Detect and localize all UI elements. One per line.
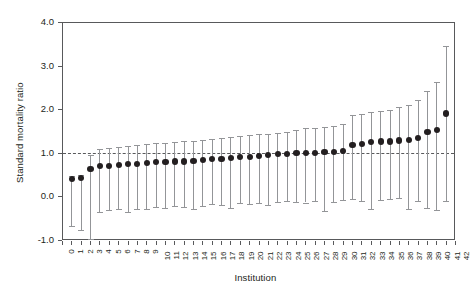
- x-tick-mark: [259, 241, 260, 245]
- error-cap-upper: [350, 115, 356, 116]
- x-tick-mark: [212, 241, 213, 245]
- data-point: [312, 150, 318, 156]
- error-bar: [352, 115, 353, 199]
- x-tick-mark: [427, 241, 428, 245]
- error-cap-lower: [322, 211, 328, 212]
- error-cap-lower: [368, 209, 374, 210]
- error-cap-upper: [200, 140, 206, 141]
- error-cap-lower: [69, 226, 75, 227]
- x-tick-label: 14: [200, 251, 209, 260]
- error-cap-lower: [228, 208, 234, 209]
- error-cap-upper: [219, 138, 225, 139]
- x-tick-mark: [165, 241, 166, 245]
- x-tick-mark: [446, 241, 447, 245]
- error-bar: [390, 110, 391, 199]
- data-point: [162, 159, 168, 165]
- error-cap-lower: [434, 210, 440, 211]
- x-tick-mark: [146, 241, 147, 245]
- error-bar: [193, 141, 194, 209]
- y-tick-label: 2.0: [26, 103, 54, 114]
- error-cap-upper: [275, 133, 281, 134]
- error-bar: [399, 107, 400, 198]
- data-point: [349, 142, 355, 148]
- error-bar: [230, 137, 231, 208]
- y-tick-label: -1.0: [26, 234, 54, 245]
- error-cap-upper: [443, 46, 449, 47]
- error-cap-lower: [191, 209, 197, 210]
- error-cap-upper: [247, 135, 253, 136]
- error-cap-lower: [172, 206, 178, 207]
- x-tick-label: 31: [360, 251, 369, 260]
- x-tick-mark: [305, 241, 306, 245]
- error-bar: [128, 146, 129, 212]
- error-bar: [99, 149, 100, 212]
- x-tick-mark: [99, 241, 100, 245]
- error-cap-upper: [265, 134, 271, 135]
- error-cap-upper: [256, 134, 262, 135]
- x-tick-label: 19: [247, 251, 256, 260]
- error-cap-lower: [415, 201, 421, 202]
- data-point: [97, 163, 103, 169]
- y-tick-label: 0.0: [26, 190, 54, 201]
- x-tick-mark: [399, 241, 400, 245]
- x-tick-mark: [221, 241, 222, 245]
- x-tick-mark: [90, 241, 91, 245]
- error-cap-upper: [331, 126, 337, 127]
- x-tick-label: 0: [67, 249, 76, 253]
- x-tick-mark: [62, 241, 63, 245]
- x-tick-mark: [418, 241, 419, 245]
- error-bar: [240, 136, 241, 203]
- x-tick-mark: [81, 241, 82, 245]
- error-bar: [259, 134, 260, 202]
- error-cap-lower: [350, 199, 356, 200]
- error-cap-lower: [116, 209, 122, 210]
- error-bar: [408, 105, 409, 210]
- error-cap-upper: [387, 110, 393, 111]
- error-bar: [315, 128, 316, 201]
- x-tick-mark: [343, 241, 344, 245]
- error-cap-upper: [162, 143, 168, 144]
- data-point: [378, 138, 384, 144]
- x-tick-label: 4: [105, 249, 114, 253]
- error-bar: [165, 143, 166, 208]
- error-cap-lower: [359, 201, 365, 202]
- error-cap-upper: [237, 136, 243, 137]
- y-tick-label: 1.0: [26, 147, 54, 158]
- error-cap-upper: [293, 130, 299, 131]
- error-cap-upper: [153, 143, 159, 144]
- error-cap-upper: [134, 145, 140, 146]
- error-cap-upper: [88, 155, 94, 156]
- x-tick-label: 26: [313, 251, 322, 260]
- x-tick-label: 13: [191, 251, 200, 260]
- error-cap-lower: [162, 208, 168, 209]
- x-tick-label: 21: [266, 251, 275, 260]
- error-cap-lower: [284, 201, 290, 202]
- x-tick-mark: [333, 241, 334, 245]
- error-cap-lower: [331, 202, 337, 203]
- error-cap-lower: [303, 203, 309, 204]
- error-cap-upper: [424, 91, 430, 92]
- error-cap-lower: [97, 212, 103, 213]
- x-tick-mark: [408, 241, 409, 245]
- x-tick-label: 18: [238, 251, 247, 260]
- error-cap-lower: [265, 205, 271, 206]
- x-tick-label: 40: [444, 251, 453, 260]
- x-axis-title: Institution: [235, 272, 277, 283]
- x-tick-label: 1: [77, 249, 86, 253]
- error-bar: [427, 91, 428, 208]
- x-tick-label: 27: [322, 251, 331, 260]
- error-cap-upper: [181, 141, 187, 142]
- x-tick-mark: [361, 241, 362, 245]
- x-tick-mark: [137, 241, 138, 245]
- data-point: [321, 149, 327, 155]
- error-cap-upper: [303, 128, 309, 129]
- data-point: [275, 151, 281, 157]
- error-cap-upper: [191, 141, 197, 142]
- error-cap-upper: [228, 137, 234, 138]
- error-bar: [212, 139, 213, 204]
- y-tick-mark: [58, 153, 62, 154]
- x-tick-mark: [268, 241, 269, 245]
- data-point: [200, 157, 206, 163]
- error-cap-lower: [256, 203, 262, 204]
- error-cap-upper: [359, 114, 365, 115]
